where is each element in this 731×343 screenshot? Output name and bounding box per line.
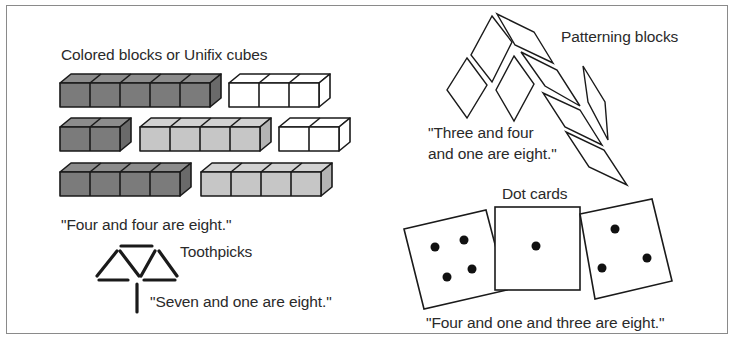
cube-train-light bbox=[140, 118, 271, 151]
blocks-title: Colored blocks or Unifix cubes bbox=[61, 46, 267, 64]
patterning-caption-line1: "Three and four bbox=[428, 124, 534, 142]
dot bbox=[460, 236, 469, 245]
cube-train-white bbox=[279, 118, 350, 151]
cube-train-light bbox=[201, 163, 332, 196]
toothpick bbox=[97, 251, 117, 276]
unifix-cubes-group bbox=[60, 74, 350, 196]
dot bbox=[598, 264, 607, 273]
dot bbox=[443, 273, 452, 282]
dot-cards-title: Dot cards bbox=[502, 185, 567, 203]
cube-train-dark bbox=[60, 74, 221, 107]
cube-train-white bbox=[229, 74, 330, 107]
blocks-caption: "Four and four are eight." bbox=[61, 216, 231, 234]
dot bbox=[431, 243, 440, 252]
rhombus bbox=[496, 56, 534, 121]
dot bbox=[611, 225, 620, 234]
dot-cards-caption: "Four and one and three are eight." bbox=[426, 314, 664, 332]
dot-cards-figure bbox=[404, 199, 672, 309]
dot bbox=[532, 242, 541, 251]
dot bbox=[643, 254, 652, 263]
dot-card-three bbox=[580, 199, 672, 299]
cube-train-dark bbox=[60, 118, 131, 151]
dot-card-four bbox=[404, 210, 507, 309]
toothpick bbox=[141, 251, 155, 276]
toothpick bbox=[120, 251, 139, 276]
cube-train-dark bbox=[60, 163, 191, 196]
toothpick bbox=[159, 251, 177, 276]
patterning-blocks-title: Patterning blocks bbox=[561, 28, 678, 46]
toothpicks-caption: "Seven and one are eight." bbox=[150, 293, 332, 311]
patterning-caption-line2: and one are eight." bbox=[428, 145, 557, 163]
toothpicks-title: Toothpicks bbox=[180, 243, 252, 261]
dot-card-one bbox=[495, 207, 580, 290]
dot bbox=[468, 265, 477, 274]
